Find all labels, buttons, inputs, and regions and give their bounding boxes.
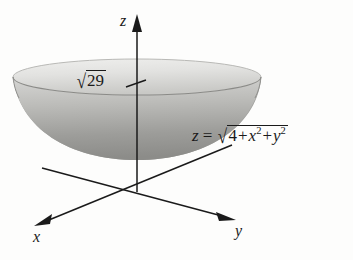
y-axis-label: y bbox=[235, 222, 242, 240]
equation-radicand: 4+x2+y2 bbox=[227, 125, 287, 146]
equation-equals-sign: = bbox=[202, 126, 214, 145]
equation-lhs: z bbox=[192, 126, 202, 145]
radical-sign-icon: √ bbox=[77, 70, 86, 93]
equation-operator-2: + bbox=[261, 126, 273, 145]
equation-term-constant: 4 bbox=[228, 126, 237, 145]
sqrt-29-radical: √29 bbox=[76, 70, 106, 93]
equation-term-y-exponent: 2 bbox=[281, 126, 286, 137]
x-axis-arrowhead bbox=[34, 214, 52, 226]
equation-term-y-base: y bbox=[273, 126, 281, 145]
math-figure-hyperboloid: z y x √29 z= √4+x2+y2 bbox=[0, 0, 353, 260]
equation-operator-1: + bbox=[237, 126, 249, 145]
equation-term-x-base: x bbox=[249, 126, 257, 145]
z-axis-arrowhead bbox=[132, 14, 142, 32]
radical-sign-icon: √ bbox=[218, 125, 227, 148]
equation-radical: √4+x2+y2 bbox=[217, 125, 287, 148]
sqrt-29-annotation: √29 bbox=[76, 70, 106, 93]
x-axis-label: x bbox=[33, 228, 40, 246]
z-axis-label: z bbox=[120, 12, 126, 30]
y-axis-line bbox=[42, 168, 222, 216]
y-axis-arrowhead bbox=[216, 212, 236, 221]
figure-canvas bbox=[0, 0, 353, 260]
sqrt-29-radicand: 29 bbox=[86, 70, 106, 91]
surface-equation-annotation: z= √4+x2+y2 bbox=[192, 125, 288, 148]
